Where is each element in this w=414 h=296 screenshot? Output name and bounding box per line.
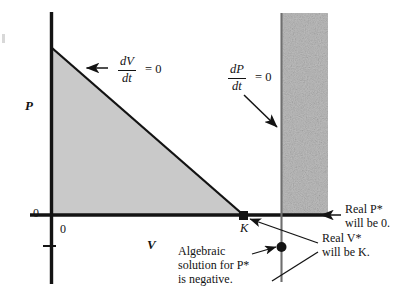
real-p-star-line-2: will be 0. <box>345 217 390 231</box>
dv-dt-equals-zero: = 0 <box>145 62 161 77</box>
algebraic-solution-line-1: Algebraic <box>178 245 249 259</box>
dp-dt-numerator: dP <box>228 62 246 77</box>
dv-dt-denominator: dt <box>118 71 136 86</box>
y-axis-label: P <box>25 98 33 113</box>
dv-dt-fraction: dV dt <box>118 54 136 86</box>
real-p-star-line-1: Real P* <box>345 203 390 217</box>
algebraic-solution-point <box>277 242 287 252</box>
dp-dt-leader-arrow <box>244 95 277 127</box>
real-v-star-line-2: will be K. <box>322 246 370 260</box>
real-v-star-leader-arrow-k <box>250 219 318 243</box>
real-v-star-leader-line-dot <box>272 252 318 281</box>
algebraic-solution-line-3: is negative. <box>178 273 249 287</box>
page-edge-artifact <box>2 34 5 43</box>
real-p-star-annotation: Real P* will be 0. <box>345 203 390 231</box>
real-v-star-annotation: Real V* will be K. <box>322 232 370 260</box>
dv-dt-numerator: dV <box>118 54 136 69</box>
dp-dt-denominator: dt <box>228 79 246 94</box>
algebraic-solution-line-2: solution for P* <box>178 259 249 273</box>
equilibrium-point-k <box>239 211 248 220</box>
algebraic-solution-leader-arrow <box>252 247 276 254</box>
dp-dt-equals-zero: = 0 <box>255 70 271 85</box>
intersection-label-k: K <box>240 221 248 236</box>
dp-dt-fraction: dP dt <box>228 62 246 94</box>
x-axis-label: V <box>147 237 156 252</box>
real-v-star-line-1: Real V* <box>322 232 370 246</box>
dp-dt-shaded-band <box>281 13 328 215</box>
y-axis-zero-label: 0 <box>33 207 39 221</box>
algebraic-solution-annotation: Algebraic solution for P* is negative. <box>178 245 249 287</box>
x-axis-zero-label: 0 <box>60 223 66 237</box>
